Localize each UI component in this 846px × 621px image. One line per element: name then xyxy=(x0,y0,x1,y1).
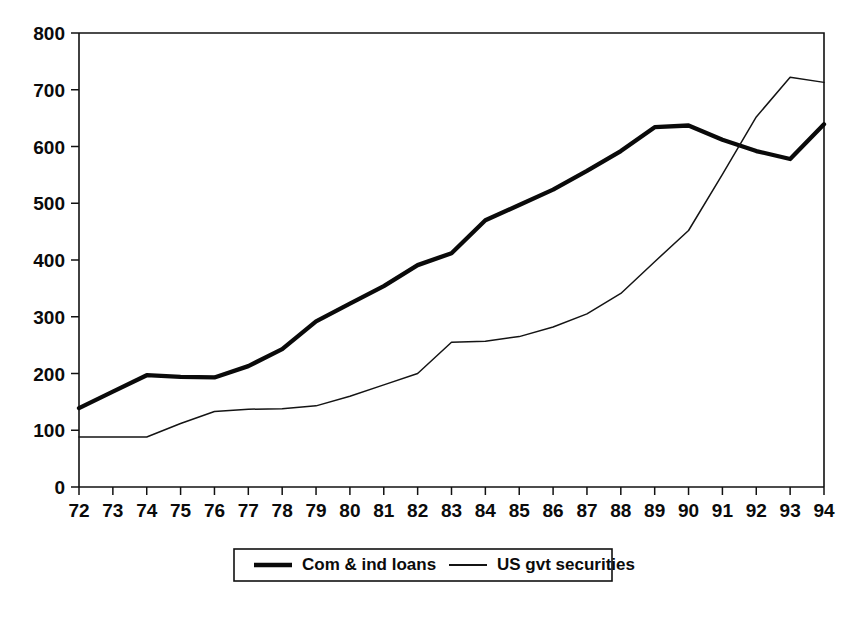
y-tick-label: 0 xyxy=(54,477,65,498)
x-tick-label: 81 xyxy=(373,500,395,521)
y-tick-label: 800 xyxy=(33,23,65,44)
y-tick-label: 600 xyxy=(33,137,65,158)
x-tick-label: 93 xyxy=(780,500,801,521)
y-tick-label: 300 xyxy=(33,307,65,328)
x-tick-label: 84 xyxy=(475,500,497,521)
legend-label-1: Com & ind loans xyxy=(302,555,436,574)
x-tick-label: 85 xyxy=(509,500,531,521)
y-tick-label: 400 xyxy=(33,250,65,271)
x-tick-label: 90 xyxy=(678,500,699,521)
x-tick-label: 86 xyxy=(543,500,564,521)
x-tick-label: 80 xyxy=(339,500,360,521)
x-axis-ticks xyxy=(79,487,824,495)
x-tick-label: 79 xyxy=(305,500,326,521)
plot-border xyxy=(79,33,824,487)
plot-frame xyxy=(79,33,824,487)
legend-label-2: US gvt securities xyxy=(497,555,635,574)
x-tick-label: 83 xyxy=(441,500,462,521)
x-tick-label: 78 xyxy=(272,500,293,521)
y-tick-label: 200 xyxy=(33,364,65,385)
y-tick-label: 500 xyxy=(33,193,65,214)
x-tick-label: 76 xyxy=(204,500,225,521)
x-tick-label: 89 xyxy=(644,500,665,521)
x-tick-label: 88 xyxy=(610,500,631,521)
x-tick-label: 75 xyxy=(170,500,192,521)
x-axis-tick-labels: 7273747576777879808182838485868788899091… xyxy=(68,500,835,521)
data-series-group xyxy=(79,77,824,437)
chart-legend: Com & ind loansUS gvt securities xyxy=(234,549,635,581)
y-axis-ticks xyxy=(71,33,79,487)
x-tick-label: 77 xyxy=(238,500,259,521)
line-chart: 0100200300400500600700800 72737475767778… xyxy=(0,0,846,621)
x-tick-label: 87 xyxy=(576,500,597,521)
x-tick-label: 94 xyxy=(813,500,835,521)
y-axis-tick-labels: 0100200300400500600700800 xyxy=(33,23,65,498)
y-tick-label: 100 xyxy=(33,420,65,441)
x-tick-label: 92 xyxy=(746,500,767,521)
x-tick-label: 91 xyxy=(712,500,734,521)
x-tick-label: 82 xyxy=(407,500,428,521)
y-tick-label: 700 xyxy=(33,80,65,101)
chart-container: 0100200300400500600700800 72737475767778… xyxy=(0,0,846,621)
series-line-com-and-ind-loans xyxy=(79,124,824,408)
x-tick-label: 74 xyxy=(136,500,158,521)
series-line-us-gvt-securities xyxy=(79,77,824,437)
x-tick-label: 73 xyxy=(102,500,123,521)
x-tick-label: 72 xyxy=(68,500,89,521)
